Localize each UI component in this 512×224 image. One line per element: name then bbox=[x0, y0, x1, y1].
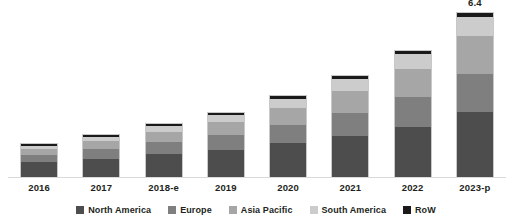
x-axis-tick-label: 2023-p bbox=[444, 180, 506, 196]
bar-slot bbox=[382, 8, 444, 177]
stacked-bar[interactable] bbox=[331, 75, 369, 177]
bar-segment-north-america[interactable] bbox=[208, 150, 244, 177]
bar-segment-europe[interactable] bbox=[457, 74, 493, 112]
bar-value-label: 6.4 bbox=[444, 0, 506, 8]
bar-segment-south-america[interactable] bbox=[270, 99, 306, 108]
chart-legend: North AmericaEuropeAsia PacificSouth Ame… bbox=[0, 202, 512, 218]
legend-swatch-icon bbox=[168, 206, 176, 214]
legend-swatch-icon bbox=[310, 206, 318, 214]
bar-slot bbox=[70, 8, 132, 177]
x-axis-tick-label: 2019 bbox=[195, 180, 257, 196]
plot-area: 6.4 bbox=[0, 8, 512, 178]
bar-segment-south-america[interactable] bbox=[457, 17, 493, 36]
legend-label: RoW bbox=[415, 205, 436, 215]
legend-item-north-america[interactable]: North America bbox=[76, 205, 151, 215]
stacked-bar[interactable] bbox=[394, 50, 432, 177]
bar-segment-europe[interactable] bbox=[332, 113, 368, 136]
stacked-bar[interactable] bbox=[20, 143, 58, 177]
legend-item-row[interactable]: RoW bbox=[403, 205, 436, 215]
bar-segment-asia-pacific[interactable] bbox=[332, 91, 368, 113]
bar-segment-europe[interactable] bbox=[21, 155, 57, 163]
bar-group: 6.4 bbox=[8, 8, 506, 177]
bar-segment-europe[interactable] bbox=[270, 125, 306, 144]
bar-segment-asia-pacific[interactable] bbox=[270, 108, 306, 125]
bar-segment-asia-pacific[interactable] bbox=[457, 36, 493, 74]
bar-segment-south-america[interactable] bbox=[208, 115, 244, 122]
legend-item-south-america[interactable]: South America bbox=[310, 205, 386, 215]
bar-segment-north-america[interactable] bbox=[146, 154, 182, 177]
bar-segment-south-america[interactable] bbox=[395, 54, 431, 68]
bar-segment-asia-pacific[interactable] bbox=[395, 69, 431, 98]
legend-swatch-icon bbox=[403, 206, 411, 214]
bar-segment-asia-pacific[interactable] bbox=[208, 122, 244, 135]
legend-label: Asia Pacific bbox=[241, 205, 293, 215]
x-axis-tick-label: 2018-e bbox=[133, 180, 195, 196]
bar-segment-europe[interactable] bbox=[395, 97, 431, 126]
stacked-bar[interactable] bbox=[145, 123, 183, 177]
bar-segment-north-america[interactable] bbox=[270, 143, 306, 177]
bar-segment-north-america[interactable] bbox=[395, 127, 431, 177]
x-axis-tick-label: 2017 bbox=[70, 180, 132, 196]
bar-segment-asia-pacific[interactable] bbox=[83, 141, 119, 149]
stacked-bar[interactable] bbox=[269, 95, 307, 177]
bar-segment-europe[interactable] bbox=[83, 149, 119, 159]
bar-slot bbox=[133, 8, 195, 177]
bar-segment-north-america[interactable] bbox=[332, 136, 368, 177]
legend-item-europe[interactable]: Europe bbox=[168, 205, 212, 215]
axis-baseline bbox=[8, 177, 506, 178]
bar-segment-north-america[interactable] bbox=[457, 112, 493, 177]
bar-segment-south-america[interactable] bbox=[332, 79, 368, 90]
legend-label: North America bbox=[88, 205, 151, 215]
bar-segment-asia-pacific[interactable] bbox=[146, 132, 182, 142]
legend-swatch-icon bbox=[76, 206, 84, 214]
legend-item-asia-pacific[interactable]: Asia Pacific bbox=[229, 205, 293, 215]
x-axis-labels: 201620172018-e20192020202120222023-p bbox=[8, 180, 506, 196]
legend-label: Europe bbox=[180, 205, 212, 215]
bar-slot bbox=[319, 8, 381, 177]
x-axis-tick-label: 2021 bbox=[319, 180, 381, 196]
legend-label: South America bbox=[322, 205, 386, 215]
x-axis-tick-label: 2020 bbox=[257, 180, 319, 196]
bar-segment-europe[interactable] bbox=[146, 142, 182, 154]
x-axis-tick-label: 2016 bbox=[8, 180, 70, 196]
stacked-bar[interactable] bbox=[456, 12, 494, 177]
stacked-bar[interactable] bbox=[82, 134, 120, 177]
x-axis-tick-label: 2022 bbox=[382, 180, 444, 196]
bar-segment-north-america[interactable] bbox=[83, 159, 119, 177]
bar-slot bbox=[195, 8, 257, 177]
stacked-bar[interactable] bbox=[207, 112, 245, 177]
bar-slot bbox=[257, 8, 319, 177]
stacked-bar-chart: 6.4 201620172018-e20192020202120222023-p… bbox=[0, 0, 512, 224]
bar-segment-europe[interactable] bbox=[208, 135, 244, 150]
bar-slot: 6.4 bbox=[444, 8, 506, 177]
legend-swatch-icon bbox=[229, 206, 237, 214]
bar-slot bbox=[8, 8, 70, 177]
bar-segment-north-america[interactable] bbox=[21, 162, 57, 177]
